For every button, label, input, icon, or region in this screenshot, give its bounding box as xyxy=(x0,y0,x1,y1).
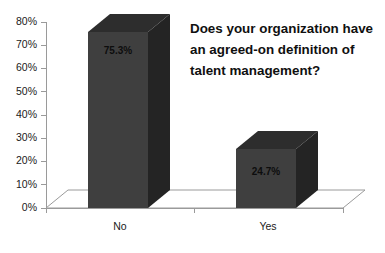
bar-value-label-yes: 24.7% xyxy=(252,166,280,177)
bar-value-label-no: 75.3% xyxy=(104,45,132,56)
y-tick-label-0: 0% xyxy=(22,201,37,213)
y-tick-label-50: 50% xyxy=(16,85,37,97)
y-tick-label-70: 70% xyxy=(16,38,37,50)
y-tick-label-10: 10% xyxy=(16,178,37,190)
x-axis-ticks xyxy=(46,208,343,213)
y-tick-label-20: 20% xyxy=(16,154,37,166)
chart-title-line-1: Does your organization have xyxy=(190,21,373,36)
chart-title-line-3: talent management? xyxy=(190,63,320,78)
chart-title-line-2: an agreed-on definition of xyxy=(190,42,355,57)
x-category-label-no: No xyxy=(113,220,127,232)
chart-canvas: 80% 70% 60% 50% 40% 30% 20% 10% 0% 75.3%… xyxy=(0,0,385,253)
bar-chart: 80% 70% 60% 50% 40% 30% 20% 10% 0% 75.3%… xyxy=(0,0,385,253)
bar-no[interactable] xyxy=(88,14,170,208)
y-tick-label-60: 60% xyxy=(16,61,37,73)
x-category-label-yes: Yes xyxy=(259,220,276,232)
y-tick-label-30: 30% xyxy=(16,131,37,143)
y-axis-ticks xyxy=(41,22,46,208)
y-tick-label-40: 40% xyxy=(16,108,37,120)
y-tick-label-80: 80% xyxy=(16,15,37,27)
